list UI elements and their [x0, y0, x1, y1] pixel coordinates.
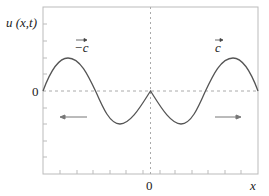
left-velocity-label: −c — [74, 40, 89, 55]
right-velocity-label: c — [215, 40, 221, 55]
y-axis-label: u (x,t) — [6, 15, 37, 30]
left-arrow-icon — [60, 115, 87, 119]
x-axis-label: x — [249, 178, 256, 193]
right-arrow-icon — [215, 115, 241, 119]
y-zero-label: 0 — [32, 84, 39, 99]
wave-diagram: u (x,t) 0 0 x −c c — [0, 0, 269, 196]
x-zero-label: 0 — [146, 178, 153, 193]
